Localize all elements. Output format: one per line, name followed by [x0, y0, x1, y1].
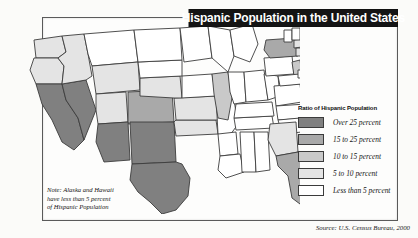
legend-row: Less than 5 percent: [298, 184, 402, 196]
state-ny: [264, 38, 298, 58]
note-line-2: have less than 5 percent: [47, 195, 177, 204]
legend-label: 5 to 10 percent: [333, 169, 377, 178]
state-de: [298, 70, 300, 78]
state-ct: [296, 48, 300, 56]
state-ne: [140, 76, 182, 98]
note-line-1: Note: Alaska and Hawaii: [47, 186, 177, 195]
state-wa: [34, 36, 66, 58]
state-sd: [138, 60, 182, 78]
map-legend: Ratio of Hispanic Population Over 25 per…: [298, 104, 402, 201]
legend-label: Over 25 percent: [333, 118, 381, 127]
page-title: Hispanic Population in the United States: [182, 11, 405, 25]
state-mt: [84, 30, 138, 66]
legend-title: Ratio of Hispanic Population: [298, 104, 399, 111]
state-or: [30, 58, 64, 84]
legend-row: Over 25 percent: [298, 116, 402, 128]
state-nm: [130, 122, 176, 164]
state-al: [254, 132, 270, 172]
state-ks: [174, 96, 218, 120]
state-nh: [292, 28, 300, 40]
source-credit: Source: U.S. Census Bureau, 2000: [316, 224, 410, 231]
state-ia: [182, 74, 216, 98]
legend-rows: Over 25 percent15 to 25 percent10 to 15 …: [298, 116, 402, 196]
state-nc: [276, 104, 300, 120]
legend-swatch: [298, 151, 324, 162]
map-figure: Hispanic Population in the United States…: [0, 0, 418, 238]
state-nd: [134, 28, 182, 62]
legend-label: 15 to 25 percent: [333, 135, 381, 144]
state-ar: [218, 132, 238, 156]
state-ga: [268, 122, 298, 156]
state-la: [218, 154, 244, 178]
map-note: Note: Alaska and Hawaii have less than 5…: [47, 186, 177, 212]
state-ky: [234, 102, 274, 118]
state-ms: [240, 132, 256, 172]
legend-swatch: [298, 168, 324, 179]
legend-row: 10 to 15 percent: [298, 150, 402, 162]
state-va: [274, 84, 300, 106]
state-md: [278, 74, 300, 86]
legend-row: 5 to 10 percent: [298, 167, 402, 179]
state-vt: [284, 30, 292, 42]
legend-swatch: [298, 134, 324, 145]
state-az: [96, 122, 130, 162]
state-pa: [264, 56, 294, 76]
state-wy: [92, 62, 140, 94]
state-fl: [276, 152, 300, 204]
legend-label: Less than 5 percent: [333, 186, 390, 195]
state-mi: [230, 24, 258, 62]
legend-swatch: [298, 185, 324, 196]
state-ok: [174, 120, 218, 136]
us-choropleth-map: [0, 14, 300, 214]
state-mn: [180, 26, 212, 62]
legend-swatch: [298, 117, 324, 128]
note-line-3: of Hispanic Population: [47, 203, 177, 212]
legend-label: 10 to 15 percent: [333, 152, 381, 161]
figure-title-banner: Hispanic Population in the United States: [189, 9, 398, 27]
legend-row: 15 to 25 percent: [298, 133, 402, 145]
state-ut: [96, 92, 128, 124]
